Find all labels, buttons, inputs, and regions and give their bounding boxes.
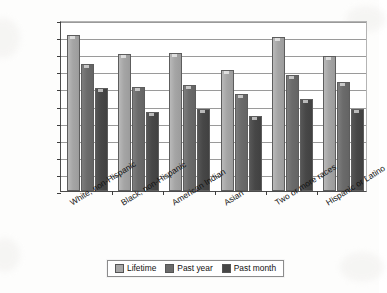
y-tick-mark bbox=[57, 39, 61, 40]
y-tick-mark bbox=[57, 125, 61, 126]
legend-swatch-icon bbox=[165, 264, 174, 273]
y-tick-mark bbox=[57, 176, 61, 177]
bar-group bbox=[272, 22, 313, 191]
legend-item: Past month bbox=[222, 263, 276, 273]
bar bbox=[67, 35, 80, 191]
bar bbox=[249, 116, 262, 191]
chart-legend: LifetimePast yearPast month bbox=[107, 260, 284, 277]
bar-group bbox=[221, 22, 262, 191]
y-tick-mark bbox=[57, 142, 61, 143]
legend-label: Lifetime bbox=[127, 263, 156, 273]
scan-artifact bbox=[340, 252, 384, 282]
x-tick-mark bbox=[215, 191, 216, 195]
legend-label: Past month bbox=[234, 263, 276, 273]
bar bbox=[81, 64, 94, 191]
x-tick-mark bbox=[163, 191, 164, 195]
y-tick-mark bbox=[57, 90, 61, 91]
y-tick-mark bbox=[57, 56, 61, 57]
legend-swatch-icon bbox=[222, 264, 231, 273]
bar bbox=[132, 87, 145, 191]
y-tick-mark bbox=[57, 73, 61, 74]
x-tick-mark bbox=[112, 191, 113, 195]
bar-group bbox=[67, 22, 108, 191]
x-tick-mark bbox=[317, 191, 318, 195]
y-tick-mark bbox=[57, 193, 61, 194]
y-tick-mark bbox=[57, 108, 61, 109]
y-tick-mark bbox=[57, 22, 61, 23]
bar bbox=[183, 85, 196, 191]
bar bbox=[235, 94, 248, 191]
scan-artifact bbox=[0, 18, 20, 58]
scan-artifact bbox=[0, 238, 20, 272]
x-tick-mark bbox=[266, 191, 267, 195]
y-tick-mark bbox=[57, 159, 61, 160]
bar bbox=[337, 82, 350, 191]
legend-item: Past year bbox=[165, 263, 212, 273]
legend-label: Past year bbox=[177, 263, 212, 273]
bar bbox=[286, 75, 299, 191]
bar bbox=[272, 37, 285, 191]
legend-swatch-icon bbox=[115, 264, 124, 273]
legend-item: Lifetime bbox=[115, 263, 156, 273]
plot-area: 1009080706050403020100 bbox=[60, 21, 367, 192]
